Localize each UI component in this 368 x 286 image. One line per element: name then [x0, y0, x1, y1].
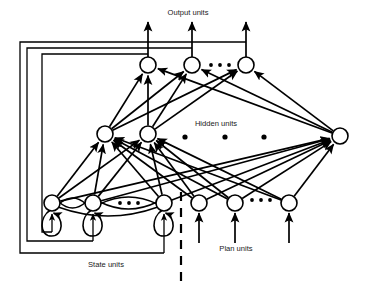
- unit-nodes: [44, 57, 348, 211]
- state-units-label: State units: [88, 260, 124, 269]
- output-unit-2: [184, 57, 200, 73]
- feedback-loop-1: [20, 42, 246, 253]
- edge-hidden3-output1: [158, 69, 332, 133]
- plan-input-arrows: [199, 213, 289, 243]
- state-unit-1: [44, 195, 60, 211]
- hidden-ellipsis-dot-2: [222, 134, 227, 139]
- hidden-units-label: Hidden units: [195, 119, 237, 128]
- output-ellipsis-dot-3: [227, 63, 231, 67]
- output-units-label: Output units: [168, 8, 209, 17]
- feedback-loop-group: [20, 42, 246, 253]
- state-self-loop-group: [42, 210, 173, 236]
- network-diagram: Output units Hidden units State units Pl…: [0, 0, 368, 286]
- state-ellipsis-dot-2: [127, 201, 131, 205]
- plan-ellipsis-dot-3: [268, 198, 272, 202]
- output-arrows: [148, 22, 246, 57]
- lateral-state1-state2: [59, 202, 86, 208]
- state-unit-2: [85, 195, 101, 211]
- state-ellipsis-dot-1: [118, 201, 122, 205]
- edge-plan2-hidden1: [114, 139, 227, 199]
- state-unit-3: [156, 195, 172, 211]
- feedback-loop-2: [27, 48, 192, 241]
- edge-state1-hidden1: [57, 142, 98, 196]
- edge-plan1-hidden3: [207, 141, 331, 200]
- edge-state2-hidden1: [94, 144, 103, 194]
- network-diagram-canvas: Output units Hidden units State units Pl…: [0, 0, 368, 286]
- hidden-ellipsis-dot-1: [182, 134, 187, 139]
- output-unit-3: [238, 57, 254, 73]
- plan-unit-1: [191, 195, 207, 211]
- plan-ellipsis-dot-1: [250, 198, 254, 202]
- hidden-unit-2: [140, 126, 156, 142]
- output-ellipsis-dot-2: [218, 63, 222, 67]
- hidden-unit-3: [332, 128, 348, 144]
- plan-unit-3: [281, 195, 297, 211]
- plan-unit-2: [227, 195, 243, 211]
- state-ellipsis-dot-3: [136, 201, 140, 205]
- output-ellipsis-dot-1: [209, 63, 213, 67]
- output-unit-1: [140, 57, 156, 73]
- hidden-unit-1: [97, 126, 113, 142]
- state-lateral-edges: [58, 197, 158, 216]
- plan-units-label: Plan units: [219, 244, 253, 253]
- plan-ellipsis-dot-2: [259, 198, 263, 202]
- hidden-ellipsis-dot-3: [261, 134, 266, 139]
